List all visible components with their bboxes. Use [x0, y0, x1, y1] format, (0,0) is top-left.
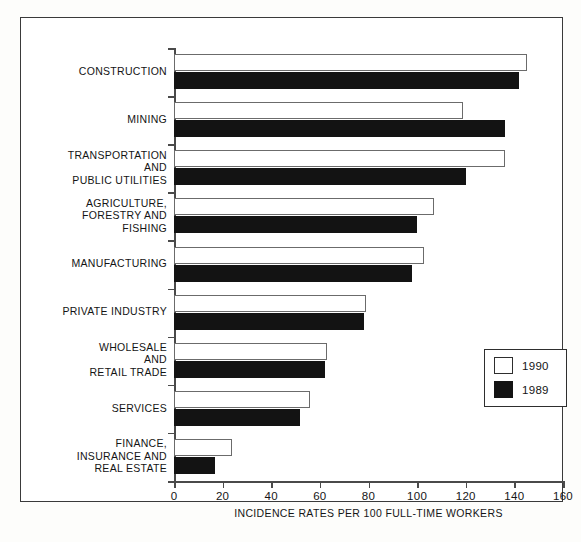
legend-label: 1990: [522, 360, 549, 372]
bar-1989: [174, 120, 505, 137]
x-tick: [563, 481, 565, 488]
bar-1989: [174, 216, 417, 233]
x-tick-label: 20: [216, 490, 229, 502]
category-label: WHOLESALEANDRETAIL TRADE: [7, 341, 167, 379]
chart-legend: 1990 1989: [484, 349, 567, 407]
category-label: SERVICES: [7, 402, 167, 415]
chart-frame: 020406080100120140160 CONSTRUCTIONMINING…: [20, 17, 563, 502]
x-tick-label: 160: [553, 490, 573, 502]
x-tick: [174, 481, 176, 488]
legend-swatch-white-square: [494, 357, 513, 374]
x-axis-title: INCIDENCE RATES PER 100 FULL-TIME WORKER…: [174, 507, 563, 519]
x-tick: [417, 481, 419, 488]
bar-1989: [174, 313, 364, 330]
x-tick: [369, 481, 371, 488]
legend-swatch-black-square: [494, 381, 513, 398]
y-tick: [168, 337, 175, 339]
bar-1989: [174, 265, 412, 282]
legend-item-1989: 1989: [494, 381, 549, 398]
bar-1990: [174, 54, 527, 71]
y-tick: [168, 192, 175, 194]
x-tick: [466, 481, 468, 488]
x-tick-label: 0: [171, 490, 178, 502]
bar-1989: [174, 72, 519, 89]
y-tick: [168, 433, 175, 435]
category-label: PRIVATE INDUSTRY: [7, 305, 167, 318]
x-tick-label: 40: [265, 490, 278, 502]
chart-canvas: 020406080100120140160 CONSTRUCTIONMINING…: [0, 0, 581, 542]
bar-1990: [174, 391, 310, 408]
bar-1989: [174, 409, 300, 426]
x-tick-label: 100: [407, 490, 427, 502]
bar-1990: [174, 343, 327, 360]
bar-1990: [174, 439, 232, 456]
y-tick: [168, 240, 175, 242]
category-label: CONSTRUCTION: [7, 65, 167, 78]
y-tick: [168, 48, 175, 50]
x-tick-label: 80: [362, 490, 375, 502]
legend-item-1990: 1990: [494, 357, 549, 374]
category-label: TRANSPORTATIONANDPUBLIC UTILITIES: [7, 149, 167, 187]
category-label: FINANCE,INSURANCE ANDREAL ESTATE: [7, 437, 167, 475]
bar-1990: [174, 247, 424, 264]
y-tick: [168, 289, 175, 291]
x-tick: [223, 481, 225, 488]
x-tick: [320, 481, 322, 488]
bar-1989: [174, 168, 466, 185]
x-tick-label: 120: [456, 490, 476, 502]
bar-1990: [174, 102, 463, 119]
bar-1989: [174, 361, 325, 378]
y-tick: [168, 144, 175, 146]
category-label: AGRICULTURE,FORESTRY ANDFISHING: [7, 197, 167, 235]
x-tick: [514, 481, 516, 488]
bar-1989: [174, 457, 215, 474]
x-tick-label: 60: [313, 490, 326, 502]
x-tick: [271, 481, 273, 488]
bar-1990: [174, 198, 434, 215]
y-tick: [168, 385, 175, 387]
category-label: MANUFACTURING: [7, 257, 167, 270]
category-label: MINING: [7, 113, 167, 126]
bar-1990: [174, 150, 505, 167]
y-tick: [168, 96, 175, 98]
bar-1990: [174, 295, 366, 312]
x-tick-label: 140: [504, 490, 524, 502]
legend-label: 1989: [522, 384, 549, 396]
